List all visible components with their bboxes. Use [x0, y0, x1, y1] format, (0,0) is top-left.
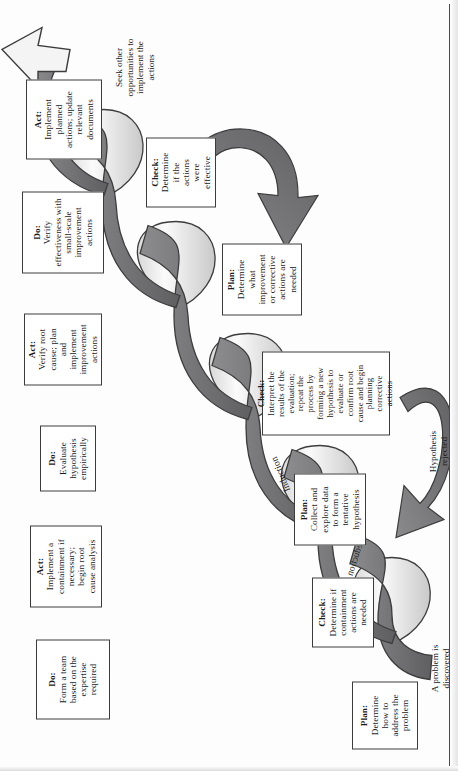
box-body: Form a teambased on theexpertiserequired — [58, 655, 99, 703]
box-body: Implementplannedactions; updaterelevantd… — [43, 91, 94, 148]
box-heading: Plan: — [299, 498, 309, 519]
box-body: Determineif theactionswereeffective — [160, 152, 211, 192]
box-heading: Plan: — [359, 704, 369, 725]
page-edge-bottom — [0, 766, 458, 771]
box-heading: Act: — [27, 340, 37, 357]
box-check-3[interactable]: Check: Determineif theactionswereeffecti… — [146, 137, 216, 207]
label-seek-other-opportunities: Seek otheropportunities toimplement thea… — [114, 15, 156, 119]
spiral-diagram: Induction Deduction Plan: Determinehow t… — [0, 0, 458, 771]
box-plan-1[interactable]: Plan: Determinehow toaddress theproblem — [352, 681, 418, 749]
box-heading: Check: — [256, 379, 266, 406]
page-edge-shadow — [450, 0, 458, 771]
box-body: Verifyeffectiveness withsmall-scaleimpro… — [42, 198, 93, 266]
label-problem-discovered: A problem isdiscovered — [430, 613, 451, 723]
box-check-2[interactable]: Check: Interpret theresults of theevalua… — [262, 351, 390, 435]
box-do-2[interactable]: Do: Evaluatehypothesisempirically — [40, 425, 96, 491]
box-plan-3[interactable]: Plan: Determinewhatimprovementor correct… — [222, 243, 302, 315]
box-body: Implement acontainment ifnecessary;begin… — [45, 539, 96, 594]
box-act-2[interactable]: Act: Verify rootcause; planandimplementi… — [24, 313, 102, 385]
box-heading: Do: — [47, 672, 57, 687]
box-body: Collect andexplore datato form atentativ… — [309, 486, 360, 532]
spiral-arrowhead — [2, 27, 70, 87]
box-body: Verify rootcause; planandimplementimprov… — [37, 324, 98, 374]
box-plan-2[interactable]: Plan: Collect andexplore datato form ate… — [294, 473, 366, 545]
box-act-3[interactable]: Act: Implementplannedactions; updaterele… — [26, 79, 102, 159]
box-heading: Check: — [150, 158, 160, 187]
box-body: Determinewhatimprovementor correctiveact… — [236, 254, 297, 304]
box-heading: Plan: — [226, 268, 236, 289]
box-body: Determine ifcontainmentactions areneeded — [328, 588, 369, 636]
box-heading: Act: — [35, 557, 45, 574]
box-check-1[interactable]: Check: Determine ifcontainmentactions ar… — [312, 577, 374, 647]
label-hypothesis-rejected: Hypothesisrejected — [428, 399, 449, 503]
box-body: Evaluatehypothesisempirically — [58, 437, 89, 480]
box-heading: Check: — [317, 598, 327, 627]
box-body: Interpret theresults of theevaluation;re… — [266, 364, 394, 422]
box-heading: Do: — [32, 225, 42, 240]
figure-canvas: Induction Deduction Plan: Determinehow t… — [0, 0, 458, 771]
box-do-3[interactable]: Do: Verifyeffectiveness withsmall-scalei… — [22, 191, 104, 273]
box-heading: Do: — [47, 451, 57, 466]
box-do-1[interactable]: Do: Form a teambased on theexpertiserequ… — [36, 639, 110, 719]
box-heading: Act: — [33, 110, 43, 127]
box-body: Determinehow toaddress theproblem — [370, 694, 411, 736]
box-act-1[interactable]: Act: Implement acontainment ifnecessary;… — [30, 525, 102, 607]
